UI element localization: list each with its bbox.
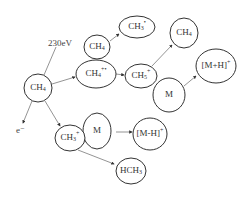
ionization-diagram: 230eV e⁻ CH4 CH4+• CH4 CH3• M CH5+ CH4 [… xyxy=(0,0,249,199)
edge-energy xyxy=(44,47,56,75)
edge-ch4-to-ch3ion xyxy=(45,101,60,126)
node-ch5-ion: CH5+ xyxy=(125,64,157,88)
node-hch3: HCH3 xyxy=(116,158,146,184)
node-ch4-product: CH4 xyxy=(170,18,198,48)
node-m-minus-h: [M-H]+ xyxy=(133,118,167,150)
node-ch3-ion: CH3+ xyxy=(55,125,85,151)
edge-ch4-to-ch4ion xyxy=(52,77,75,84)
edge-ch5-to-ch4 xyxy=(152,45,172,66)
edge-m-to-mh xyxy=(184,76,196,86)
energy-label: 230eV xyxy=(48,38,72,48)
svg-text:M: M xyxy=(165,89,173,99)
svg-text:[M+H]+: [M+H]+ xyxy=(202,59,232,70)
edge-ch4ion-to-ch5 xyxy=(116,74,124,75)
svg-text:CH3•: CH3• xyxy=(128,19,146,31)
node-ch4-ion: CH4+• xyxy=(76,60,116,88)
node-mh-plus: [M+H]+ xyxy=(196,49,236,83)
svg-text:[M-H]+: [M-H]+ xyxy=(137,127,165,138)
node-ch4-neutral: CH4 xyxy=(84,35,110,59)
edge-ch4-to-ch3radical xyxy=(110,34,119,41)
electron-label: e⁻ xyxy=(16,125,25,135)
node-ch3-radical: CH3• xyxy=(119,16,155,38)
svg-text:HCH3: HCH3 xyxy=(120,165,142,175)
edge-ch3ion-to-hch3 xyxy=(78,150,114,164)
node-m-lower: M xyxy=(83,113,111,149)
node-m-upper: M xyxy=(153,78,185,112)
edge-ch4-to-electron xyxy=(23,101,32,123)
node-ch4-source: CH4 xyxy=(24,74,52,102)
svg-text:M: M xyxy=(93,125,101,135)
